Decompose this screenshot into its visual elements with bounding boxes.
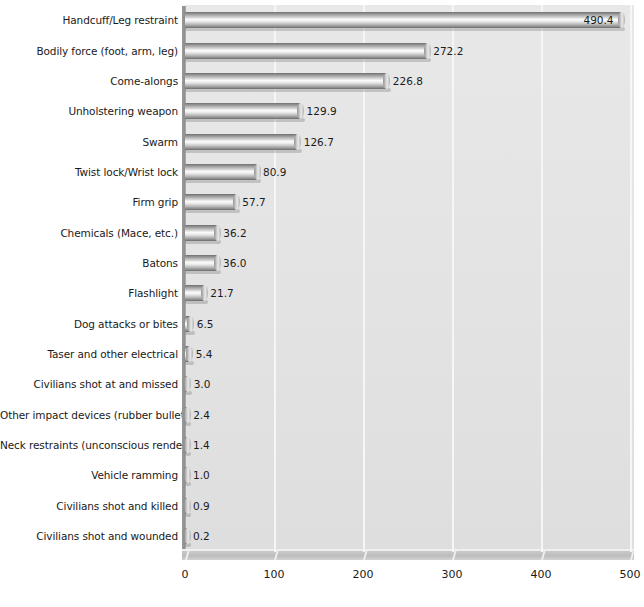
bar-value-label: 129.9 <box>307 106 337 117</box>
bar-end-cap <box>294 134 301 150</box>
bar[interactable] <box>185 103 308 119</box>
bar-value-label: 126.7 <box>304 137 334 148</box>
category-axis-label: Other impact devices (rubber bullets) <box>0 410 178 421</box>
category-axis-label: Civilians shot and wounded <box>0 531 178 542</box>
category-axis-label: Civilians shot and killed <box>0 501 178 512</box>
bar-value-label: 490.4 <box>583 15 613 26</box>
bar-end-cap <box>186 346 193 362</box>
bar-end-cap <box>233 194 240 210</box>
category-axis-label: Twist lock/Wrist lock <box>0 167 178 178</box>
bar-value-label: 1.0 <box>193 470 210 481</box>
bar-value-label: 3.0 <box>194 379 211 390</box>
category-axis-label: Taser and other electrical <box>0 349 178 360</box>
bar[interactable] <box>185 12 628 28</box>
bar-value-label: 36.2 <box>223 228 246 239</box>
category-axis-label: Firm grip <box>0 197 178 208</box>
bar[interactable] <box>185 73 394 89</box>
bar-value-label: 226.8 <box>393 76 423 87</box>
bar-end-cap <box>618 12 625 28</box>
bar[interactable] <box>185 225 224 241</box>
value-axis-tick-label: 500 <box>620 568 641 581</box>
category-axis-label: Bodily force (foot, arm, leg) <box>0 46 178 57</box>
category-axis: Handcuff/Leg restraintBodily force (foot… <box>0 5 178 562</box>
category-axis-label: Come-alongs <box>0 76 178 87</box>
bar-end-cap <box>214 255 221 271</box>
bar[interactable] <box>185 255 224 271</box>
bar-end-cap <box>424 43 431 59</box>
bar-end-cap <box>214 225 221 241</box>
category-axis-label: Batons <box>0 258 178 269</box>
bar-body <box>185 12 621 28</box>
category-axis-label: Dog attacks or bites <box>0 319 178 330</box>
bar-value-label: 272.2 <box>433 46 463 57</box>
bar[interactable] <box>185 285 211 301</box>
value-axis-tick-label: 100 <box>264 568 285 581</box>
bar-body <box>185 73 387 89</box>
bar-body <box>185 103 301 119</box>
value-axis: 0100200300400500 <box>182 568 642 588</box>
value-axis-tick-label: 400 <box>531 568 552 581</box>
bar-end-cap <box>184 467 191 483</box>
bar[interactable] <box>185 43 434 59</box>
bar-value-label: 0.2 <box>193 531 210 542</box>
bar-end-cap <box>184 437 191 453</box>
bar-body <box>185 164 257 180</box>
category-axis-label: Unholstering weapon <box>0 106 178 117</box>
gridline <box>541 5 543 552</box>
bar[interactable] <box>185 164 264 180</box>
value-axis-tick-label: 300 <box>442 568 463 581</box>
category-axis-label: Vehicle ramming <box>0 470 178 481</box>
bar-end-cap <box>383 73 390 89</box>
bar-end-cap <box>254 164 261 180</box>
bar-value-label: 21.7 <box>210 288 233 299</box>
bar-body <box>185 43 427 59</box>
bar-value-label: 36.0 <box>223 258 246 269</box>
bar-end-cap <box>297 103 304 119</box>
bar-end-cap <box>187 316 194 332</box>
bar-end-cap <box>184 528 191 544</box>
category-axis-label: Civilians shot at and missed <box>0 379 178 390</box>
category-axis-label: Flashlight <box>0 288 178 299</box>
gridline <box>630 5 632 552</box>
bar-value-label: 80.9 <box>263 167 286 178</box>
bar-end-cap <box>184 376 191 392</box>
horizontal-bar-chart: Handcuff/Leg restraintBodily force (foot… <box>0 0 644 607</box>
bar-end-cap <box>201 285 208 301</box>
plot-floor <box>182 551 634 560</box>
bar-end-cap <box>184 407 191 423</box>
bar[interactable] <box>185 194 243 210</box>
plot-area: 490.4272.2226.8129.9126.780.957.736.236.… <box>182 5 634 562</box>
bar-body <box>185 255 217 271</box>
category-axis-label: Chemicals (Mace, etc.) <box>0 228 178 239</box>
category-axis-label: Swarm <box>0 137 178 148</box>
bar-value-label: 57.7 <box>242 197 265 208</box>
value-axis-tick-label: 200 <box>353 568 374 581</box>
bar-value-label: 1.4 <box>193 440 210 451</box>
bar[interactable] <box>185 134 305 150</box>
bar-value-label: 2.4 <box>193 410 210 421</box>
bar-end-cap <box>184 498 191 514</box>
bar-body <box>185 194 236 210</box>
bar-value-label: 6.5 <box>197 319 214 330</box>
bar-body <box>185 134 298 150</box>
value-axis-tick-label: 0 <box>182 568 189 581</box>
gridline <box>452 5 454 552</box>
bar-body <box>185 225 217 241</box>
category-axis-label: Handcuff/Leg restraint <box>0 15 178 26</box>
category-axis-label: Neck restraints (unconscious rendering) <box>0 440 178 451</box>
bar-value-label: 0.9 <box>193 501 210 512</box>
bar-value-label: 5.4 <box>196 349 213 360</box>
